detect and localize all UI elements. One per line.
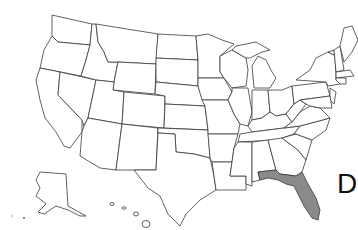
state-north-dakota	[156, 34, 198, 60]
state-hawaii	[134, 212, 139, 216]
state-florida	[258, 170, 320, 220]
state-washington	[52, 15, 92, 45]
state-south-dakota	[156, 58, 198, 86]
us-map	[0, 0, 358, 230]
state-new-mexico	[116, 124, 158, 170]
state-hawaii	[122, 207, 126, 209]
state-hawaii	[110, 203, 114, 206]
state-alaska	[36, 172, 86, 216]
state-wyoming	[113, 62, 156, 94]
state-maine	[340, 26, 358, 62]
map-label: D	[337, 170, 357, 198]
aleutian-islands	[11, 215, 13, 217]
aleutian-islands	[23, 217, 25, 219]
state-hawaii	[142, 221, 150, 228]
state-new-york	[296, 52, 340, 86]
state-kansas	[164, 104, 208, 130]
state-arizona	[80, 118, 122, 170]
state-colorado	[122, 92, 165, 128]
